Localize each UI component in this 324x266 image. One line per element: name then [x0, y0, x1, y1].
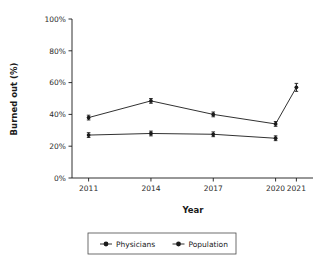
chart-figure: 0%20%40%60%80%100% 20112014201720202021 … — [0, 0, 324, 266]
y-tick-label: 20% — [49, 142, 66, 151]
y-tick-label: 40% — [49, 110, 66, 119]
x-axis-label: Year — [181, 205, 204, 215]
x-tick-label: 2011 — [79, 184, 98, 193]
data-point-marker — [274, 122, 278, 126]
chart-legend: PhysiciansPopulation — [88, 233, 236, 254]
legend-marker-circle-icon — [104, 242, 109, 247]
data-point-marker — [87, 116, 91, 120]
x-tick-label: 2021 — [287, 184, 306, 193]
data-point-marker — [211, 132, 215, 136]
y-tick-label: 60% — [49, 78, 66, 87]
legend-label: Population — [189, 240, 229, 249]
data-point-marker — [294, 85, 298, 89]
data-point-marker — [87, 133, 91, 137]
data-point-marker — [149, 132, 153, 136]
x-tick-label: 2017 — [204, 184, 223, 193]
data-point-marker — [149, 99, 153, 103]
y-tick-label: 100% — [45, 15, 66, 24]
y-axis-label: Burned out (%) — [9, 62, 19, 135]
y-tick-label: 0% — [54, 174, 66, 183]
legend-marker-circle-icon — [176, 242, 181, 247]
chart-background — [0, 0, 324, 266]
data-point-marker — [211, 113, 215, 117]
x-tick-label: 2020 — [266, 184, 285, 193]
legend-label: Physicians — [116, 240, 155, 249]
data-point-marker — [274, 136, 278, 140]
burnout-line-chart: 0%20%40%60%80%100% 20112014201720202021 … — [0, 0, 324, 266]
y-tick-label: 80% — [49, 47, 66, 56]
x-tick-label: 2014 — [141, 184, 160, 193]
